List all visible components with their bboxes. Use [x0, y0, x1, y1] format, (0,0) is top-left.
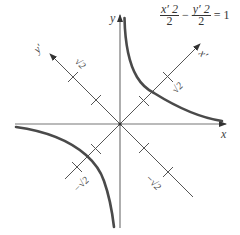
y-prime-neg-tick-label: −√2	[144, 172, 164, 192]
origin-point	[118, 122, 121, 125]
x-prime-axis-label: x′	[196, 46, 211, 61]
x-axis-label: x	[220, 127, 227, 141]
hyperbola-lower-left-branch	[16, 127, 114, 227]
y-axis-label: y	[109, 11, 116, 25]
y-prime-pos-tick-label: √2	[73, 56, 88, 71]
x-prime-pos-tick-label: √2	[170, 80, 185, 95]
x-prime-neg-tick-label: −√2	[71, 174, 91, 194]
y-prime-axis	[50, 54, 193, 197]
hyperbola-diagram: y x x′ y′ √2 √2 −√2 −√2	[0, 0, 240, 235]
y-prime-axis-label: y′	[30, 41, 45, 56]
